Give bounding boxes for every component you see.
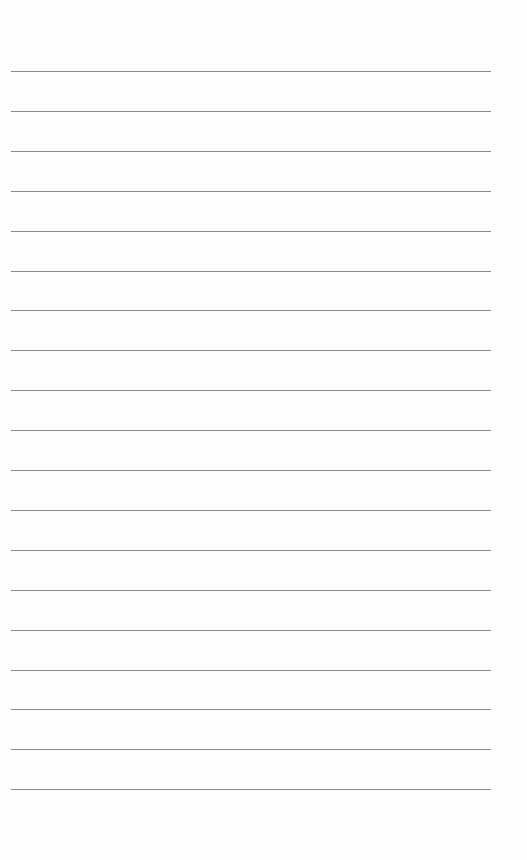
ruled-line [11,231,491,232]
ruled-line [11,430,491,431]
ruled-line [11,510,491,511]
ruled-line [11,151,491,152]
ruled-line [11,310,491,311]
ruled-line [11,590,491,591]
ruled-line [11,191,491,192]
ruled-line [11,630,491,631]
ruled-line [11,470,491,471]
ruled-line [11,709,491,710]
ruled-line [11,390,491,391]
ruled-line [11,789,491,790]
ruled-line [11,350,491,351]
lined-paper-page [0,0,527,860]
ruled-line [11,749,491,750]
ruled-line [11,670,491,671]
ruled-line [11,111,491,112]
ruled-line [11,550,491,551]
ruled-line [11,71,491,72]
ruled-line [11,271,491,272]
